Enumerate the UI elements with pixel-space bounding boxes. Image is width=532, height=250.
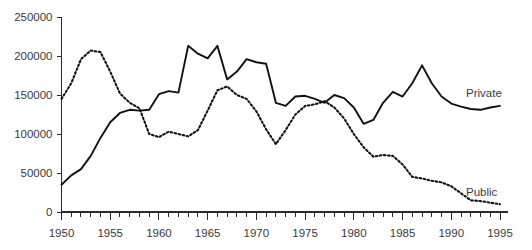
line-chart: 050000100000150000200000250000 195019551…	[0, 0, 532, 250]
y-tick-label: 150000	[14, 89, 52, 101]
series-label-private: Private	[466, 87, 502, 99]
y-tick-label: 250000	[14, 11, 52, 23]
y-tick-label: 50000	[21, 167, 53, 179]
x-tick-label: 1990	[438, 227, 464, 239]
x-axis: 1950195519601965197019751980198519901995	[49, 212, 513, 239]
chart-plot-area: 050000100000150000200000250000 195019551…	[0, 0, 532, 250]
series-labels: PrivatePublic	[466, 87, 502, 198]
x-tick-label: 1950	[49, 227, 75, 239]
y-tick-label: 200000	[14, 50, 52, 62]
y-tick-label: 100000	[14, 128, 52, 140]
series-group	[62, 46, 501, 204]
x-tick-label: 1970	[244, 227, 270, 239]
x-tick-label: 1955	[97, 227, 123, 239]
x-tick-label: 1985	[390, 227, 416, 239]
x-tick-label: 1965	[195, 227, 221, 239]
x-tick-label: 1980	[341, 227, 367, 239]
series-line-private	[62, 46, 501, 185]
series-label-public: Public	[466, 186, 498, 198]
x-tick-label: 1975	[292, 227, 318, 239]
x-tick-label: 1960	[146, 227, 172, 239]
y-tick-label: 0	[46, 206, 52, 218]
x-tick-label: 1995	[487, 227, 513, 239]
series-line-public	[62, 51, 501, 205]
y-axis: 050000100000150000200000250000	[14, 11, 61, 218]
